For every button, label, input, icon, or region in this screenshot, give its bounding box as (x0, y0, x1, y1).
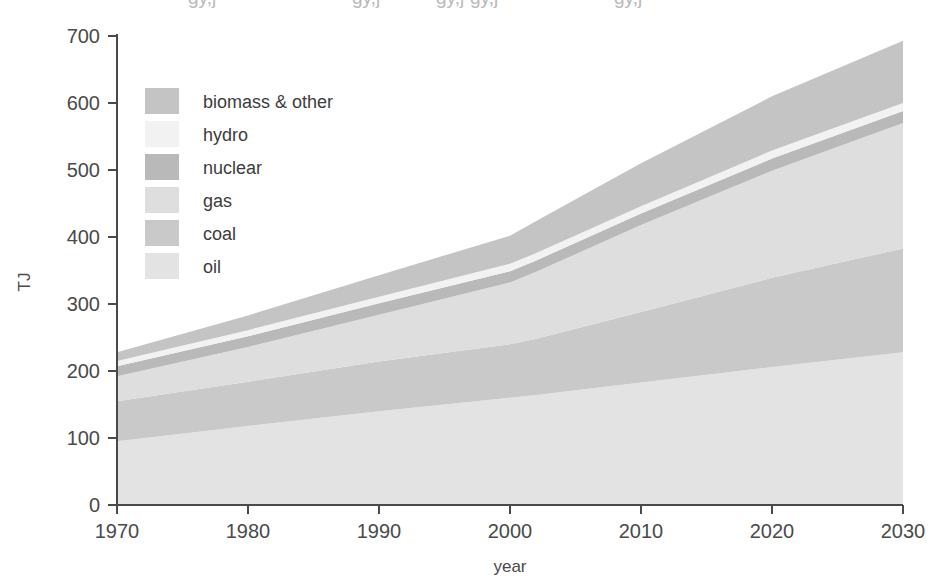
legend-label-coal: coal (203, 224, 236, 244)
legend-label-nuclear: nuclear (203, 158, 262, 178)
cropped-text-fragment-2: gy,j (436, 0, 464, 8)
y-tick-label-0: 0 (89, 494, 100, 516)
legend-swatch-biomass-other (145, 88, 179, 114)
y-tick-label-300: 300 (67, 293, 100, 315)
x-tick-label-2030: 2030 (881, 520, 926, 542)
legend-swatch-gas (145, 187, 179, 213)
x-axis-title: year (493, 557, 526, 576)
legend-swatch-coal (145, 220, 179, 246)
x-tick-label-2000: 2000 (488, 520, 533, 542)
cropped-caption-descenders: gy,jgy,jgy,jgy,jgy,j (188, 0, 642, 8)
chart-legend: biomass & otherhydronucleargascoaloil (145, 88, 333, 279)
cropped-text-fragment-3: gy,j (470, 0, 498, 8)
y-axis-title: TJ (15, 273, 34, 292)
stacked-area-chart: gy,jgy,jgy,jgy,jgy,j 0100200300400500600… (0, 0, 931, 584)
legend-label-gas: gas (203, 191, 232, 211)
cropped-text-fragment-4: gy,j (614, 0, 642, 8)
x-tick-label-1990: 1990 (357, 520, 402, 542)
x-axis-ticks: 1970198019902000201020202030 (95, 505, 926, 542)
legend-swatch-oil (145, 253, 179, 279)
legend-label-biomass-other: biomass & other (203, 92, 333, 112)
y-tick-label-400: 400 (67, 226, 100, 248)
y-tick-label-500: 500 (67, 159, 100, 181)
y-axis-ticks: 0100200300400500600700 (67, 25, 117, 516)
chart-figure: gy,jgy,jgy,jgy,jgy,j 0100200300400500600… (0, 0, 931, 584)
y-tick-label-200: 200 (67, 360, 100, 382)
y-tick-label-600: 600 (67, 92, 100, 114)
legend-swatch-nuclear (145, 154, 179, 180)
x-tick-label-1980: 1980 (226, 520, 271, 542)
legend-label-oil: oil (203, 257, 221, 277)
cropped-text-fragment-0: gy,j (188, 0, 216, 8)
x-tick-label-2020: 2020 (750, 520, 795, 542)
x-tick-label-1970: 1970 (95, 520, 140, 542)
legend-swatch-hydro (145, 121, 179, 147)
y-tick-label-100: 100 (67, 427, 100, 449)
legend-label-hydro: hydro (203, 125, 248, 145)
x-tick-label-2010: 2010 (619, 520, 664, 542)
cropped-text-fragment-1: gy,j (352, 0, 380, 8)
y-tick-label-700: 700 (67, 25, 100, 47)
